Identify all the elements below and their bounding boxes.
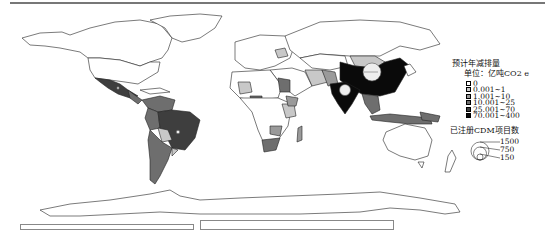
region-southeast-asia (362, 94, 380, 114)
bubble-legend-circles-icon (468, 137, 502, 165)
bubble-label: 1500 (500, 138, 519, 145)
region-caribbean (140, 88, 170, 94)
bubble-label: 750 (500, 146, 514, 153)
region-egypt (278, 78, 290, 92)
bubble-brazil (176, 130, 180, 134)
legend-swatch (466, 87, 471, 92)
region-uruguay (172, 148, 178, 156)
legend-item: 70.001~400 (466, 113, 520, 120)
figure-bottom-border-left (20, 224, 194, 230)
region-antarctica (40, 190, 460, 216)
legend-classes: 0 0.001~1 1.001~10 10.001~25 25.001~70 7… (466, 80, 520, 119)
bubble-legend-title: 已注册CDM项目数 (450, 127, 519, 134)
bubble-legend: 1500 750 150 (468, 137, 528, 165)
legend-swatch (466, 107, 471, 112)
region-madagascar (297, 126, 302, 142)
region-southern-africa (270, 126, 282, 136)
bubble-india (340, 85, 351, 96)
legend-swatch (466, 113, 471, 118)
legend-title: 预计年减排量 (452, 60, 500, 67)
region-colombia-venezuela (142, 96, 175, 112)
region-australia (383, 124, 432, 160)
region-west-africa (238, 82, 252, 94)
region-south-africa (262, 138, 280, 152)
legend-label: 70.001~400 (473, 112, 520, 119)
legend-swatch (466, 81, 471, 86)
world-map (0, 0, 548, 240)
figure-bottom-border-right (200, 220, 394, 230)
region-tasmania (418, 162, 424, 168)
region-central-america (128, 90, 142, 104)
legend-unit: 单位：亿吨CO2 e (464, 70, 529, 77)
bubble-mexico (117, 87, 119, 89)
bubble-label: 150 (500, 154, 514, 161)
region-russia (285, 20, 440, 58)
legend-swatch (466, 94, 471, 99)
region-ethiopia (286, 96, 298, 106)
region-korea-japan (404, 64, 416, 76)
region-new-zealand (445, 150, 456, 172)
legend-swatch (466, 100, 471, 105)
